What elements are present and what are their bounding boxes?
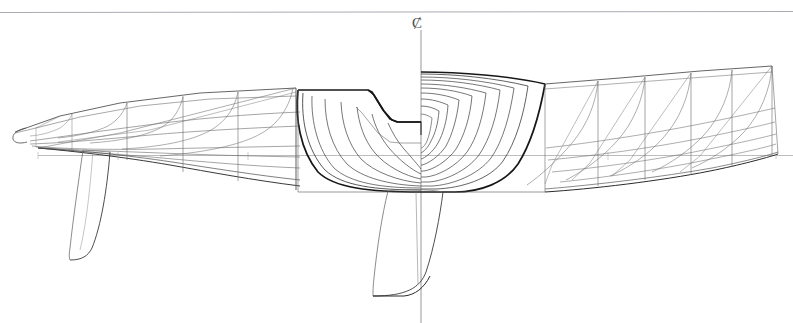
- section-aft-7: [388, 123, 421, 169]
- diagonal-5-forward: [30, 114, 72, 136]
- diagonal-1-aft: [527, 81, 598, 185]
- keel-line-forward-2: [38, 148, 300, 180]
- transom-edge: [772, 66, 778, 154]
- buttock-c-forward: [36, 116, 60, 128]
- rudder-trailing-edge: [70, 152, 110, 260]
- diagonal-4-aft: [652, 70, 732, 172]
- section-aft-6: [372, 114, 421, 174]
- keel-trailing-edge: [373, 192, 443, 296]
- rudder-stock-line: [80, 151, 93, 250]
- section-fwd-outer: [421, 84, 545, 192]
- section-aft-3: [325, 99, 421, 186]
- buttock-b-forward: [58, 92, 296, 142]
- sheer-line-aft: [545, 66, 772, 84]
- rudder-leading-edge: [69, 150, 83, 260]
- plan-view-aft: [527, 66, 778, 192]
- fin-keel: [373, 190, 443, 296]
- section-fwd-5: [421, 88, 472, 171]
- keel-line-aft: [545, 154, 778, 192]
- top-rule: [0, 12, 793, 13]
- keel-leading-edge: [373, 191, 388, 296]
- waterline-1-aft: [546, 108, 775, 148]
- diagonal-2-aft: [566, 77, 645, 180]
- plan-view-forward: [13, 88, 300, 190]
- deck-step-lower: [398, 122, 421, 135]
- keel-fin-centre-line: [416, 192, 418, 284]
- rudder: [69, 150, 110, 260]
- keel-line-aft-2: [545, 152, 778, 189]
- waterline-2-aft: [548, 122, 775, 160]
- buttock-b-aft: [612, 73, 691, 176]
- buttock-c-aft: [572, 77, 645, 180]
- keel-line-forward: [38, 148, 300, 186]
- section-aft-4: [341, 102, 421, 183]
- hull-lines-drawing: [0, 0, 793, 323]
- waterline-2-forward: [30, 126, 300, 144]
- section-fwd-3: [421, 80, 500, 182]
- section-fwd-6: [421, 93, 459, 165]
- sheer-line-forward: [15, 88, 296, 132]
- buttock-d-aft: [545, 81, 598, 184]
- lines-plan-canvas: Ȼ: [0, 0, 793, 323]
- section-aft-transom: [297, 90, 421, 192]
- diagonal-3-aft: [610, 73, 691, 176]
- section-aft-1: [303, 93, 421, 190]
- waterline-4-aft: [560, 144, 776, 182]
- deck-step-notch: [368, 90, 421, 122]
